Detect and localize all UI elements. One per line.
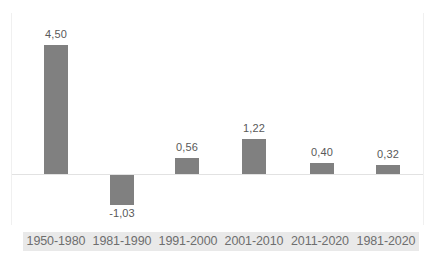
plot-frame-right-border xyxy=(423,13,424,225)
bar-1[interactable] xyxy=(44,45,68,174)
category-axis: 1950-1980 1981-1990 1991-2000 2001-2010 … xyxy=(12,232,423,252)
bar-label-1: 4,50 xyxy=(26,28,86,40)
bar-label-4: 1,22 xyxy=(224,122,284,134)
category-label-6: 1981-2020 xyxy=(353,232,419,251)
category-label-3: 1991-2000 xyxy=(155,232,221,251)
category-label-2: 1981-1990 xyxy=(89,232,155,251)
zero-baseline xyxy=(12,174,423,175)
bar-label-2: -1,03 xyxy=(92,207,152,219)
category-label-4: 2001-2010 xyxy=(221,232,287,251)
category-label-5: 2011-2020 xyxy=(287,232,353,251)
plot-area: 4,50 -1,03 0,56 1,22 0,40 0,32 xyxy=(12,13,423,225)
bar-6[interactable] xyxy=(376,165,400,174)
bar-label-3: 0,56 xyxy=(157,141,217,153)
bar-label-5: 0,40 xyxy=(292,146,352,158)
bar-5[interactable] xyxy=(310,163,334,174)
category-label-1: 1950-1980 xyxy=(23,232,89,251)
bar-2[interactable] xyxy=(110,175,134,205)
bar-label-6: 0,32 xyxy=(358,148,418,160)
bar-chart: 4,50 -1,03 0,56 1,22 0,40 0,32 1950-1980… xyxy=(0,0,445,279)
bar-4[interactable] xyxy=(242,139,266,174)
bar-3[interactable] xyxy=(175,158,199,174)
